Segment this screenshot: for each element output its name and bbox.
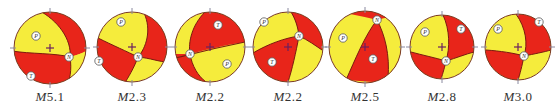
svg-text:P: P [422,29,427,35]
svg-text:P: P [495,26,500,32]
magnitude-label-4: M2.2 [273,89,302,105]
axis-marker-n: N [520,52,528,60]
axis-marker-t: T [535,18,543,26]
axis-marker-t: T [95,57,103,65]
axis-marker-p: P [421,28,429,36]
magnitude-value: 2.5 [362,89,380,104]
beachball-3 [170,0,245,82]
axis-marker-n: N [186,50,194,58]
magnitude-value: 3.0 [515,89,533,104]
axis-marker-t: T [369,55,377,63]
magnitude-value: 2.3 [129,89,147,104]
axis-marker-p: P [339,34,347,42]
magnitude-prefix: M [195,89,206,104]
svg-text:P: P [118,19,123,25]
axis-marker-p: P [260,18,268,26]
magnitude-label-2: M2.3 [117,89,146,105]
magnitude-label-5: M2.5 [350,89,379,105]
axis-marker-n: N [373,16,381,24]
magnitude-label-1: M5.1 [35,89,64,105]
axis-marker-t: T [27,72,35,80]
axis-marker-p: P [32,32,40,40]
magnitude-prefix: M [350,89,361,104]
axis-marker-n: N [295,32,303,40]
magnitude-value: 2.2 [207,89,225,104]
axis-marker-p: P [494,25,502,33]
axis-marker-t: T [214,21,222,29]
axis-marker-t: T [457,25,465,33]
magnitude-value: 2.8 [439,89,457,104]
magnitude-prefix: M [117,89,128,104]
svg-text:P: P [33,33,38,39]
svg-text:P: P [261,19,266,25]
axis-marker-n: N [65,53,73,61]
magnitude-label-6: M2.8 [427,89,456,105]
magnitude-value: 5.1 [47,89,65,104]
magnitude-prefix: M [35,89,46,104]
axis-marker-p: P [117,18,125,26]
axis-marker-n: N [134,53,142,61]
svg-text:P: P [340,35,345,41]
magnitude-prefix: M [273,89,284,104]
beachball-1 [0,0,92,90]
magnitude-value: 2.2 [285,89,303,104]
svg-text:P: P [224,61,229,67]
axis-marker-n: N [442,57,450,65]
magnitude-label-7: M3.0 [503,89,532,105]
focal-mechanism-figure: PNTPNTTNPPNTNPTPTNPTN M5.1M2.3M2.2M2.2M2… [0,0,560,107]
magnitude-prefix: M [503,89,514,104]
axis-marker-p: P [223,60,231,68]
axis-marker-t: T [268,58,276,66]
magnitude-prefix: M [427,89,438,104]
magnitude-label-3: M2.2 [195,89,224,105]
